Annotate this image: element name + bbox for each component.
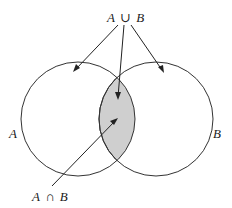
set-a-label: A [8,126,17,141]
union-label: A ∪ B [106,10,144,25]
venn-diagram: A ∪ B A ∩ B A B [0,0,232,208]
arrow-intersection-label [52,121,115,186]
set-b-label: B [213,126,221,141]
venn-svg: A ∪ B A ∩ B A B [0,0,232,208]
arrow-union-to-a [76,25,118,69]
intersection-label: A ∩ B [31,189,68,204]
